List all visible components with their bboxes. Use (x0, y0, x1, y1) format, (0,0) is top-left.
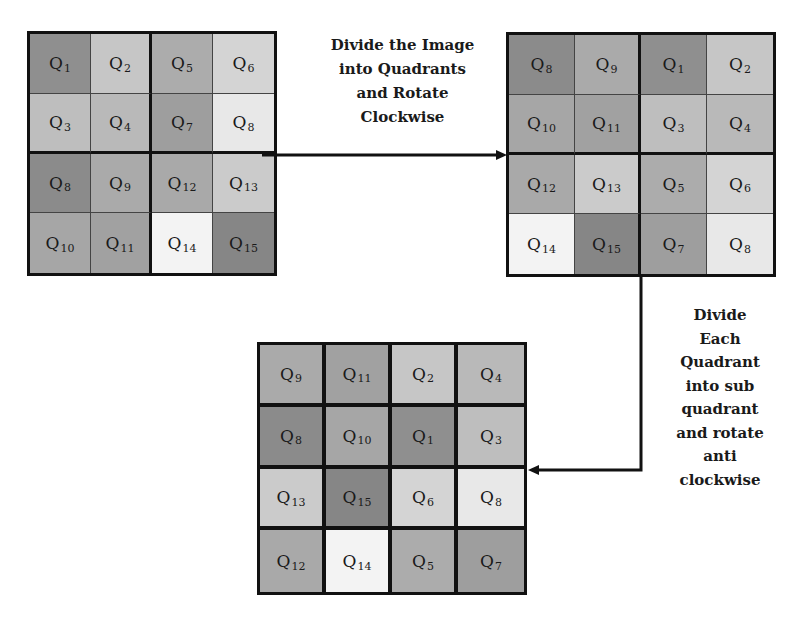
arrow-step2 (528, 276, 641, 475)
arrow-step1 (262, 150, 507, 160)
connector-arrows (0, 0, 798, 618)
